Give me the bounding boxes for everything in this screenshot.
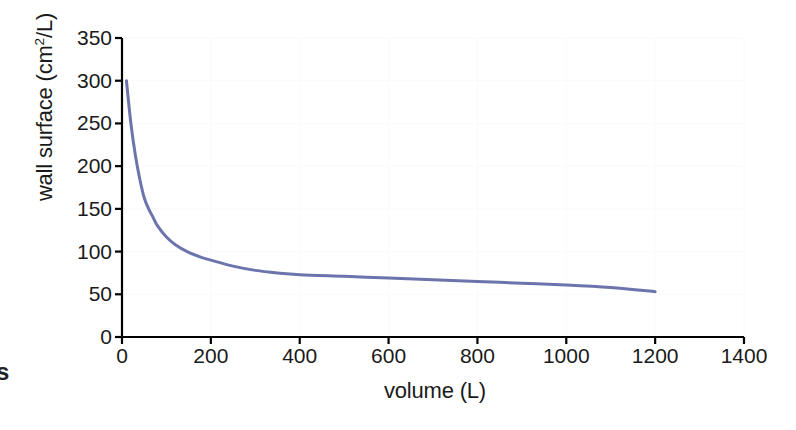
data-line-wall-surface-vs-volume xyxy=(126,81,655,292)
x-axis-tick-labels: 0200400600800100012001400 xyxy=(0,345,796,375)
data-series-group xyxy=(126,81,655,292)
y-tick-label: 150 xyxy=(52,198,112,219)
x-tick-label: 800 xyxy=(432,345,522,366)
y-tick-label: 300 xyxy=(52,70,112,91)
y-tick-label: 50 xyxy=(52,283,112,304)
x-axis-title: volume (L) xyxy=(300,378,570,404)
x-tick-label: 600 xyxy=(344,345,434,366)
x-tick-label: 400 xyxy=(255,345,345,366)
x-tick-label: 1400 xyxy=(699,345,789,366)
y-tick-label: 200 xyxy=(52,155,112,176)
y-tick-label: 350 xyxy=(52,27,112,48)
chart-figure: s wall surface (cm2/L) volume (L) 050100… xyxy=(0,0,796,430)
axis-ticks xyxy=(115,38,744,344)
y-tick-label: 0 xyxy=(52,326,112,347)
x-tick-label: 200 xyxy=(166,345,256,366)
y-tick-label: 100 xyxy=(52,241,112,262)
x-tick-label: 0 xyxy=(77,345,167,366)
y-axis-title-superscript: 2 xyxy=(32,38,47,45)
y-tick-label: 250 xyxy=(52,112,112,133)
x-tick-label: 1000 xyxy=(521,345,611,366)
x-tick-label: 1200 xyxy=(610,345,700,366)
